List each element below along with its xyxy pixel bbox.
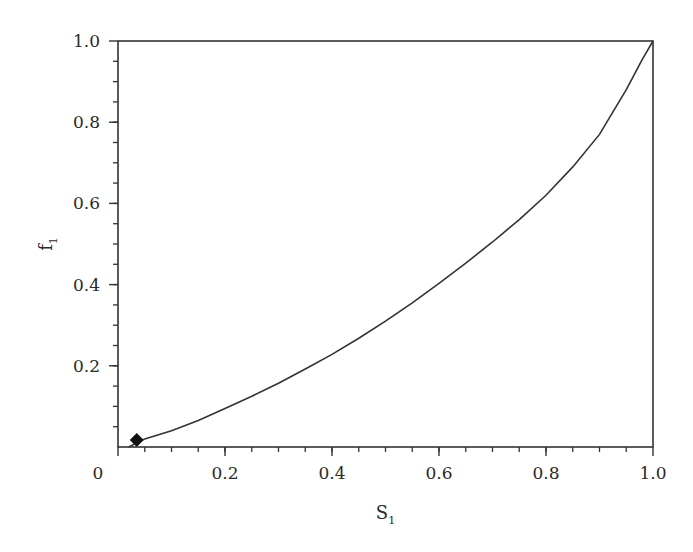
tick-labels: 00.20.40.60.81.00.20.40.60.81.0 [73, 31, 667, 483]
x-tick-label: 0.2 [211, 463, 238, 483]
y-tick-label: 0.8 [73, 112, 100, 132]
y-tick-label: 1.0 [73, 31, 100, 51]
x-tick-label: 0.8 [532, 463, 559, 483]
y-tick-label: 0.6 [73, 193, 100, 213]
y-tick-label: 0.2 [73, 356, 100, 376]
data-curve [129, 41, 653, 447]
x-tick-label: 0.6 [425, 463, 452, 483]
y-axis-label: f1 [35, 237, 60, 251]
x-tick-label: 0.4 [318, 463, 345, 483]
major-ticks [109, 41, 653, 456]
x-tick-label: 0 [93, 463, 104, 483]
x-axis-label: S1 [376, 502, 395, 527]
chart: 00.20.40.60.81.00.20.40.60.81.0 S1 f1 [0, 0, 693, 552]
x-tick-label: 1.0 [639, 463, 666, 483]
y-tick-label: 0.4 [73, 275, 100, 295]
minor-ticks [113, 61, 626, 452]
plot-frame [118, 41, 653, 447]
